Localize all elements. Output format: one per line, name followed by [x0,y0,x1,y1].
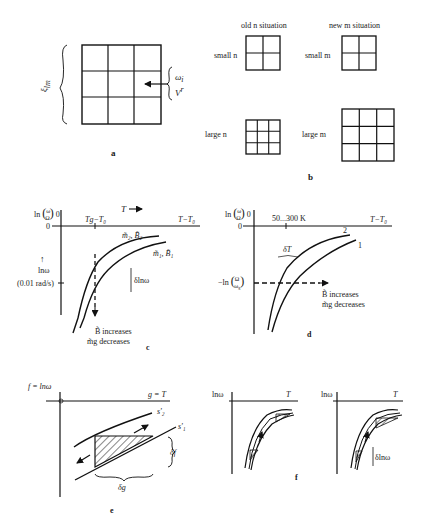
panel-label-b: b [308,172,313,182]
curve-2-label: 2 [343,226,347,235]
y-tick-label: −ln (Ωωg) [218,274,244,290]
x-end-label: T−T₀ [370,215,387,224]
brace-left [60,45,67,124]
note-line1: B̃ increases [322,289,359,299]
curve-s1 [75,427,176,480]
panel-e: f = lnω g = T s'₂ s'₁ δf δg e [28,382,186,515]
grid-large-n [246,120,280,154]
curve-upper-tail [73,318,78,333]
grid-large-m [342,109,394,161]
brace-right [167,67,172,100]
delta-g-label: δg [118,483,126,492]
delta-t-label: δT [283,245,292,254]
panel-label-c: c [146,343,150,352]
panel-label-e: e [110,506,114,515]
xi-label: ξlm [39,80,52,92]
x-axis-label: g = T [148,390,166,399]
delta-label: δlnω [375,453,390,462]
lnw-arrow: ↑ [40,254,45,264]
panel-f-right: lnω T δlnω [321,390,403,474]
curve-lower-label: m̃₁, B̃₁ [153,249,173,258]
note-line2: m̃g decreases [87,337,130,346]
arrow-up-right [134,425,148,433]
delta-label: δlnω [134,276,149,285]
curve-outer [245,410,292,468]
note-line2: m̃g decreases [322,300,365,309]
header-new-m: new m situation [329,21,380,30]
y-axis-label: ln (ωΩ) 0 [225,206,251,221]
y-axis-label: ln (ωΩ) 0 [34,206,60,221]
grid-small-m [342,36,376,70]
hatch-top [376,418,398,428]
x-arrow-label: T [121,204,127,214]
omega-label: ωi [175,72,184,84]
label-large-n: large n [205,130,227,139]
curve-1-label: 1 [358,241,362,250]
curve-s2-label: s'₂ [157,407,165,416]
panel-label-f: f [295,473,298,482]
hatch-top [276,414,290,422]
v-label: Vr [175,85,185,98]
hatched-region [95,436,153,467]
x-axis-label: T [286,390,291,399]
curve-s1-label: s'₁ [178,422,186,431]
delta-t-underline [278,256,298,258]
x-tick-label: 50...300 K [272,214,306,223]
delta-f-label: δf [170,448,178,457]
label-large-m: large m [302,130,327,139]
header-old-n: old n situation [241,21,287,30]
label-small-m: small m [305,51,331,60]
y-axis-label: lnω [212,390,224,399]
arrow-down-left [77,455,90,463]
curve-inner [251,415,294,470]
panel-a: ξlm ωi Vr a [39,45,185,158]
panel-b: old n situation new m situation small n … [205,21,394,182]
y-axis-label: f = lnω [28,382,52,391]
y-zero-label: 0 [238,222,242,231]
note-line1: B̃ increases [95,326,132,336]
y-tick-label: (0.01 rad/s) [17,279,54,288]
grid-small-n [246,36,280,70]
panel-f: lnω T f lnω T δlnω [212,390,403,482]
panel-label-a: a [111,148,116,158]
y-axis-label: lnω [321,390,333,399]
brace-delta-g [95,474,153,481]
curve-upper-label: m̃₂, B̃₂ [122,231,142,240]
label-small-n: small n [214,51,237,60]
lnw-label: lnω [38,266,50,275]
panel-d: ln (ωΩ) 0 0 50...300 K T−T₀ 2 1 δT −ln (… [218,206,392,339]
x-axis-label: T [393,390,398,399]
y-zero-label: 0 [46,222,50,231]
x-end-label: T−T₀ [178,215,195,224]
panel-c: ln (ωΩ) 0 0 T T−T₀ Tg−T₀ m̃₂, B̃₂ m̃₁, B… [17,204,200,352]
curve-lower-tail [80,318,84,328]
panel-label-d: d [307,330,312,339]
x-tick-label: Tg−T₀ [85,215,106,224]
curve-mid [249,413,293,469]
panel-f-left: lnω T f [212,390,298,482]
figure-canvas: ξlm ωi Vr a old n situation new m situat… [0,0,421,522]
